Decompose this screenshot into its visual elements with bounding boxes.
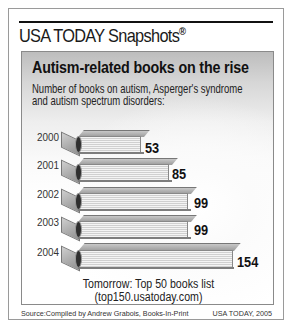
year-label-2002: 2002 xyxy=(37,188,59,200)
brand-title: USA TODAY Snapshots® xyxy=(19,25,185,47)
source-note: Source:Compiled by Andrew Grabois, Books… xyxy=(21,309,188,318)
brand-text: USA TODAY Snapshots xyxy=(19,25,179,46)
chart-heading: Autism-related books on the rise xyxy=(32,58,249,78)
value-2002: 99 xyxy=(194,195,208,211)
header-rule xyxy=(19,21,273,23)
year-label-2001: 2001 xyxy=(37,159,59,171)
chart-subtitle: Number of books on autism, Asperger's sy… xyxy=(32,83,258,107)
value-2004: 154 xyxy=(237,254,258,270)
registered-mark: ® xyxy=(179,25,185,37)
tomorrow-link[interactable]: (top150.usatoday.com) xyxy=(41,291,256,304)
publisher-credit: USA TODAY, 2005 xyxy=(213,309,272,318)
value-2003: 99 xyxy=(194,222,208,238)
year-label-2004: 2004 xyxy=(37,246,59,258)
value-2001: 85 xyxy=(172,166,186,182)
chart-panel: Autism-related books on the rise Number … xyxy=(21,51,274,305)
value-2000: 53 xyxy=(145,140,159,156)
year-label-2000: 2000 xyxy=(37,131,59,143)
year-label-2003: 2003 xyxy=(37,216,59,228)
